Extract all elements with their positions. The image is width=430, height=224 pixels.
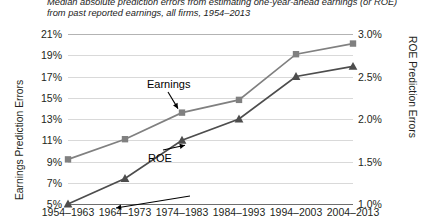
data-point-roe (64, 200, 73, 208)
annotation-roe: ROE (148, 152, 172, 164)
data-point-earnings (293, 51, 299, 57)
data-point-earnings (179, 109, 185, 115)
data-point-earnings (65, 156, 71, 162)
earnings-leader-arrow (168, 92, 178, 109)
axis-pointer-arrow (116, 196, 190, 210)
series-line-earnings (68, 44, 353, 160)
data-point-earnings (236, 97, 242, 103)
data-point-earnings (122, 136, 128, 142)
data-point-earnings (350, 40, 356, 46)
data-series-layer (0, 0, 430, 224)
data-point-roe (349, 62, 358, 70)
series-line-roe (68, 66, 353, 204)
annotation-earnings: Earnings (147, 78, 190, 90)
data-point-roe (121, 174, 130, 182)
